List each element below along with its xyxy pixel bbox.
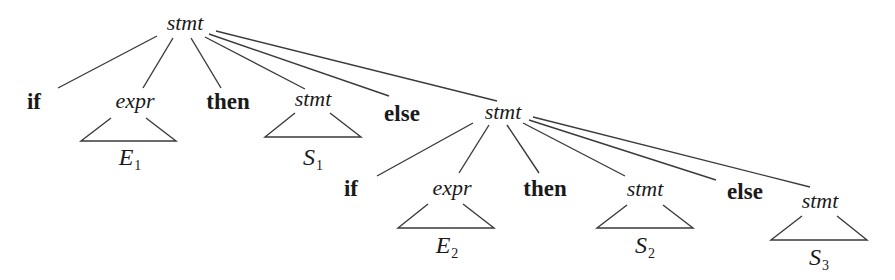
subtree-index: 2	[451, 246, 458, 261]
subtree-base: S	[809, 244, 821, 270]
stmt-node-s2: stmt	[627, 178, 664, 200]
subtree-label-e2: E2	[436, 233, 459, 261]
subtree-triangles	[81, 113, 867, 240]
if-keyword-node-2: if	[344, 177, 358, 200]
subtree-label-s2: S2	[635, 233, 655, 261]
inner-stmt-node: stmt	[485, 101, 522, 123]
subtree-base: S	[303, 144, 315, 170]
root-stmt-node: stmt	[167, 12, 204, 34]
expr-node-2: expr	[432, 177, 471, 199]
subtree-base: S	[635, 232, 647, 258]
subtree-index: 2	[648, 246, 655, 261]
subtree-label-e1: E1	[119, 145, 142, 173]
subtree-label-s1: S1	[303, 145, 323, 173]
expr-node-1: expr	[115, 90, 154, 112]
stmt-node-s1: stmt	[295, 88, 332, 110]
else-keyword-node-2: else	[727, 180, 763, 203]
then-keyword-node-2: then	[523, 177, 566, 200]
if-keyword-node: if	[27, 90, 41, 113]
then-keyword-node: then	[206, 90, 249, 113]
subtree-label-s3: S3	[809, 245, 829, 273]
else-keyword-node: else	[384, 102, 420, 125]
subtree-index: 3	[822, 258, 829, 273]
stmt-node-s3: stmt	[802, 190, 839, 212]
subtree-base: E	[436, 232, 451, 258]
subtree-index: 1	[316, 158, 323, 173]
subtree-index: 1	[134, 158, 141, 173]
subtree-base: E	[119, 144, 134, 170]
